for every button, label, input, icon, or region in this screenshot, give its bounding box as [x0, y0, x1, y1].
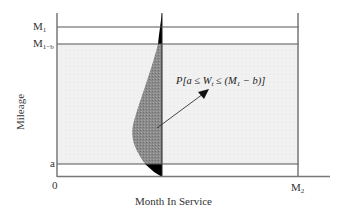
tick-m1-sub: 1: [43, 26, 47, 34]
tick-m2-sub: 2: [301, 187, 305, 195]
tick-m1-b-text: M: [33, 37, 43, 49]
tick-m1-b-sub: 1−b: [43, 43, 54, 51]
distribution-lower-tail: [145, 164, 162, 177]
tick-zero: 0: [52, 180, 58, 191]
ann-tail: − b)]: [240, 75, 265, 86]
tick-m1-b: M1−b: [33, 38, 54, 51]
probability-band: [58, 44, 298, 164]
probability-annotation: P[a ≤ Wt ≤ (M1 − b)]: [176, 75, 265, 88]
tick-zero-text: 0: [52, 179, 58, 191]
tick-m1-text: M: [33, 20, 43, 32]
ann-suffix: ≤ (M: [213, 75, 236, 86]
distribution-upper-tail: [158, 13, 162, 44]
ann-prefix: P[a ≤ W: [176, 75, 212, 86]
tick-m2: M2: [291, 182, 304, 195]
tick-a-text: a: [50, 157, 55, 169]
x-axis-label: Month In Service: [135, 196, 212, 207]
tick-m1: M1: [33, 21, 46, 34]
y-axis-label: Mileage: [14, 94, 26, 130]
tick-m2-text: M: [291, 181, 301, 193]
tick-a: a: [50, 158, 55, 169]
